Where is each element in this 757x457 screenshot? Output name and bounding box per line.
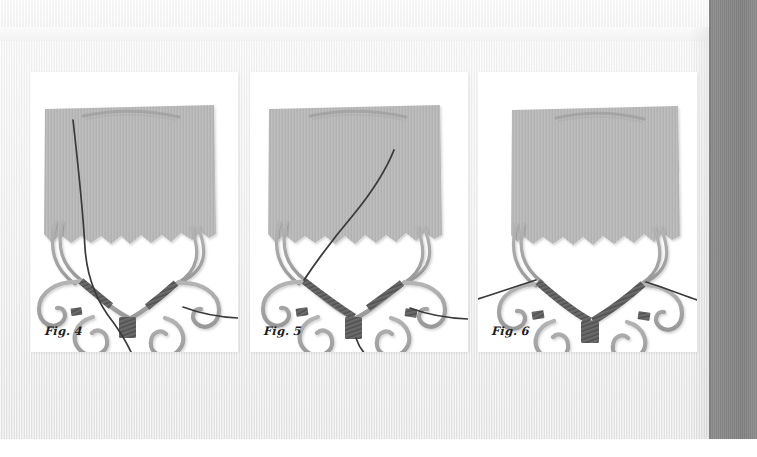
- right-dark-band: [709, 0, 757, 439]
- wire-wrap-segments: [532, 282, 651, 343]
- table-surface-top: [0, 0, 710, 27]
- wire-scroll-necklace-icon: [250, 72, 468, 352]
- figure-caption: Fig. 4: [45, 324, 84, 338]
- figure-caption: Fig. 6: [492, 324, 531, 338]
- page-top-highlight: [0, 27, 710, 41]
- thread-tail-right: [646, 282, 697, 300]
- figure-panel-5[interactable]: Fig. 5: [250, 72, 468, 352]
- figure-panel-4[interactable]: Fig. 4: [31, 72, 238, 352]
- right-band-edge-shadow: [709, 0, 712, 439]
- right-band-bottom-trim: [709, 439, 757, 457]
- table-surface-bottom: [0, 439, 710, 457]
- figure-panel-6[interactable]: Fig. 6: [478, 72, 697, 352]
- figure-caption: Fig. 5: [264, 324, 303, 338]
- wire-scroll-necklace-icon: [478, 72, 697, 352]
- wire-scroll-necklace-icon: [31, 72, 238, 352]
- page-stage: Fig. 4: [0, 0, 757, 457]
